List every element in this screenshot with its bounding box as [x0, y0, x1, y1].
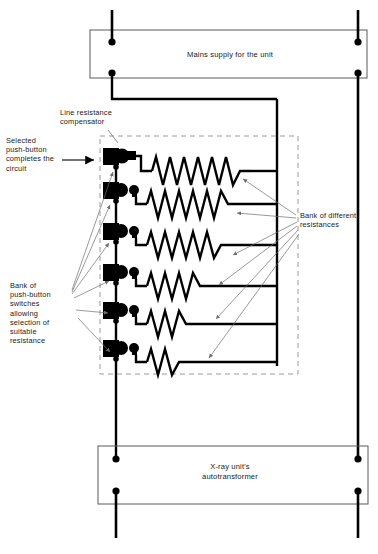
push-button-2-cap[interactable] — [114, 183, 128, 197]
row-4-switch-lead — [136, 279, 147, 286]
line-resistance-compensator-label: Line resistance compensator — [60, 108, 150, 126]
push-button-6-node — [113, 356, 119, 362]
push-button-4-cap[interactable] — [114, 265, 128, 279]
circuit-row-6 — [103, 340, 277, 375]
mains-terminal-top-right — [354, 38, 361, 45]
resistor-3 — [147, 232, 232, 258]
push-button-2-contact-stem — [132, 190, 137, 197]
circuit-row-5 — [103, 302, 277, 337]
selected-push-button-label: Selected push-button completes the circu… — [6, 136, 66, 173]
diagram-canvas: Mains supply for the unit X-ray unit's a… — [0, 0, 378, 554]
row-6-switch-lead — [136, 355, 147, 362]
push-button-6-cap[interactable] — [114, 341, 128, 355]
resistor-4 — [147, 273, 211, 299]
resistor-2 — [147, 191, 239, 218]
push-button-5-cap[interactable] — [114, 303, 128, 317]
resistance-bank-label: Bank of different resistances — [300, 211, 376, 229]
push-button-bank-label: Bank of push-button switches allowing se… — [10, 281, 72, 345]
resistor-5 — [147, 311, 197, 337]
push-button-5-node — [113, 318, 119, 324]
resistor-1 — [152, 157, 251, 185]
resistor-6 — [147, 349, 190, 375]
push-button-1-node — [113, 164, 119, 170]
row-1-switch-lead — [136, 156, 152, 171]
autotransformer-terminal-top-left — [112, 455, 119, 462]
row-5-switch-lead — [136, 317, 147, 324]
push-button-4-contact-stem — [132, 272, 137, 279]
autotransformer-label: X-ray unit's autotransformer — [150, 462, 310, 481]
mains-terminal-top-left — [108, 38, 115, 45]
wire-mains-to-compensator — [112, 73, 277, 99]
push-button-1-contact[interactable] — [126, 151, 136, 160]
circuit-row-2 — [103, 182, 277, 218]
push-button-5-contact-stem — [132, 310, 137, 317]
row-3-switch-lead — [136, 238, 147, 245]
row-2-switch-lead — [136, 197, 147, 204]
autotransformer-terminal-top-right — [354, 455, 361, 462]
push-button-3-contact-stem — [132, 231, 137, 238]
mains-supply-label: Mains supply for the unit — [150, 50, 310, 60]
push-button-6-contact-stem — [132, 348, 137, 355]
push-button-3-node — [113, 239, 119, 245]
circuit-row-1 — [103, 148, 277, 185]
leader-lines-resistance-bank — [209, 179, 299, 358]
circuit-row-3 — [103, 223, 277, 258]
push-button-4-node — [113, 280, 119, 286]
push-button-3-cap[interactable] — [114, 224, 128, 238]
push-button-2-node — [113, 198, 119, 204]
